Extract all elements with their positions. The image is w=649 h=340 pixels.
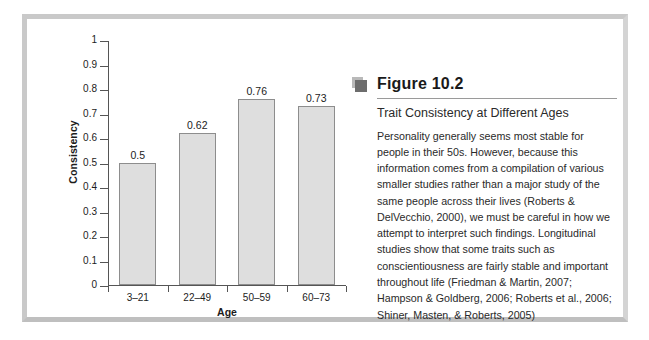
- y-axis-tick-label: 0.6: [83, 132, 97, 143]
- y-axis-line: [108, 41, 109, 286]
- bar: 0.76: [238, 99, 275, 285]
- y-axis-tick-mark: [100, 286, 108, 287]
- y-axis-tick-mark: [100, 41, 108, 42]
- y-axis-tick-label: 0: [91, 279, 97, 290]
- bar: 0.62: [179, 133, 216, 285]
- bar: 0.73: [298, 106, 335, 285]
- y-axis-tick-label: 0.8: [83, 83, 97, 94]
- y-axis-tick-mark: [100, 90, 108, 91]
- y-axis-tick-label: 0.5: [83, 157, 97, 168]
- bar-value-label: 0.5: [130, 149, 145, 161]
- caption-divider: [377, 98, 617, 99]
- y-axis-tick-mark: [100, 188, 108, 189]
- y-axis-tick-mark: [100, 262, 108, 263]
- figure-inner-surface: Consistency 00.10.20.30.40.50.60.70.80.9…: [27, 19, 623, 317]
- bar-value-label: 0.73: [306, 92, 326, 104]
- y-axis-tick-label: 0.2: [83, 230, 97, 241]
- bar-chart: Consistency 00.10.20.30.40.50.60.70.80.9…: [45, 27, 360, 317]
- y-axis-tick-label: 0.7: [83, 108, 97, 119]
- x-axis-tick-mark: [227, 286, 228, 292]
- x-axis-category-label: 60–73: [302, 292, 330, 303]
- figure-subtitle: Trait Consistency at Different Ages: [377, 106, 617, 122]
- y-axis-title-label: Consistency: [67, 120, 79, 184]
- y-axis-tick-mark: [100, 237, 108, 238]
- x-axis-title-label: Age: [108, 306, 346, 318]
- y-axis-tick-mark: [100, 213, 108, 214]
- x-axis-tick-mark: [108, 286, 109, 292]
- plot-area: 00.10.20.30.40.50.60.70.80.91 0.50.620.7…: [108, 41, 346, 286]
- y-axis-tick-mark: [100, 115, 108, 116]
- y-axis-tick-label: 0.4: [83, 181, 97, 192]
- x-axis-category-label: 22–49: [183, 292, 211, 303]
- figure-marker-icon-front-square: [355, 80, 367, 92]
- x-axis-category-label: 50–59: [243, 292, 271, 303]
- x-axis-tick-mark: [346, 286, 347, 292]
- bar: 0.5: [119, 163, 156, 286]
- figure-marker-icon: [352, 77, 368, 92]
- y-axis-tick-mark: [100, 66, 108, 67]
- bar-value-label: 0.76: [247, 85, 267, 97]
- figure-number-label: Figure 10.2: [377, 75, 464, 93]
- figure-caption-header: Figure 10.2: [352, 75, 617, 96]
- figure-caption-panel: Figure 10.2 Trait Consistency at Differe…: [352, 75, 617, 323]
- y-axis-tick-label: 1: [91, 34, 97, 45]
- bar-value-label: 0.62: [187, 119, 207, 131]
- y-axis-tick-mark: [100, 164, 108, 165]
- y-axis-title: Consistency: [65, 27, 81, 277]
- figure-body-text: Personality generally seems most stable …: [377, 128, 617, 323]
- y-axis-tick-mark: [100, 139, 108, 140]
- x-axis-tick-mark: [287, 286, 288, 292]
- y-axis-tick-label: 0.9: [83, 59, 97, 70]
- figure-frame: Consistency 00.10.20.30.40.50.60.70.80.9…: [22, 14, 628, 322]
- y-axis-tick-label: 0.1: [83, 255, 97, 266]
- y-axis-tick-label: 0.3: [83, 206, 97, 217]
- x-axis-category-label: 3–21: [127, 292, 149, 303]
- x-axis-tick-mark: [168, 286, 169, 292]
